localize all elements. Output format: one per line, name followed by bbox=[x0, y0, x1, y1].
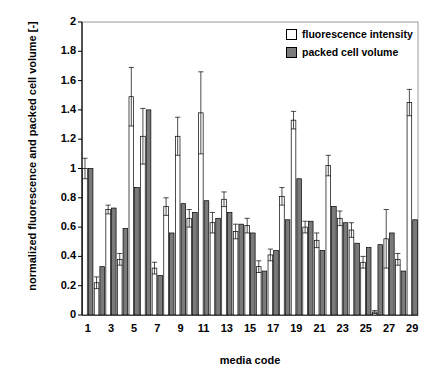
legend-item-fluorescence: fluorescence intensity bbox=[286, 28, 413, 40]
bar-fluorescence-intensity bbox=[175, 136, 180, 315]
bar-fluorescence-intensity bbox=[291, 120, 296, 315]
bar-group bbox=[372, 245, 383, 315]
bar-fluorescence-intensity bbox=[280, 196, 285, 315]
bar-group bbox=[117, 229, 128, 315]
bar-packed-cell-volume bbox=[285, 220, 290, 315]
bar-packed-cell-volume bbox=[274, 251, 279, 315]
bar-packed-cell-volume bbox=[158, 275, 163, 315]
bar-fluorescence-intensity bbox=[349, 230, 354, 315]
bar-packed-cell-volume bbox=[262, 271, 267, 315]
bar-packed-cell-volume bbox=[193, 212, 198, 315]
bar-fluorescence-intensity bbox=[233, 231, 238, 315]
bar-fluorescence-intensity bbox=[338, 218, 343, 315]
bar-group bbox=[187, 210, 198, 315]
bar-group bbox=[152, 262, 163, 315]
legend-swatch-icon bbox=[286, 47, 297, 58]
bar-fluorescence-intensity bbox=[222, 199, 227, 315]
bar-group bbox=[175, 117, 186, 315]
bar-packed-cell-volume bbox=[413, 220, 418, 315]
bar-packed-cell-volume bbox=[320, 251, 325, 315]
bar-packed-cell-volume bbox=[378, 245, 383, 315]
bar-group bbox=[326, 155, 337, 315]
bar-packed-cell-volume bbox=[88, 169, 93, 316]
bar-fluorescence-intensity bbox=[268, 255, 273, 315]
bar-packed-cell-volume bbox=[343, 223, 348, 315]
bar-group bbox=[303, 221, 314, 315]
bar-group bbox=[279, 188, 290, 315]
bar-packed-cell-volume bbox=[216, 218, 221, 315]
bar-group bbox=[210, 212, 221, 315]
bar-fluorescence-intensity bbox=[187, 218, 192, 315]
bar-group bbox=[82, 158, 93, 315]
bar-packed-cell-volume bbox=[111, 208, 116, 315]
bar-fluorescence-intensity bbox=[326, 166, 331, 315]
bar-group bbox=[407, 89, 418, 315]
bar-packed-cell-volume bbox=[332, 207, 337, 315]
bar-group bbox=[256, 261, 267, 315]
bar-packed-cell-volume bbox=[297, 179, 302, 315]
bar-packed-cell-volume bbox=[366, 248, 371, 315]
bar-fluorescence-intensity bbox=[83, 169, 88, 316]
bar-packed-cell-volume bbox=[308, 221, 313, 315]
bar-fluorescence-intensity bbox=[117, 259, 122, 315]
bar-group bbox=[337, 211, 348, 315]
bar-fluorescence-intensity bbox=[407, 103, 412, 315]
bar-group bbox=[221, 192, 232, 315]
bar-fluorescence-intensity bbox=[152, 268, 157, 315]
legend-label-packed-cell-volume: packed cell volume bbox=[302, 46, 398, 58]
bar-fluorescence-intensity bbox=[256, 267, 261, 315]
bar-packed-cell-volume bbox=[181, 204, 186, 315]
legend-item-packed-cell-volume: packed cell volume bbox=[286, 46, 413, 58]
bar-group bbox=[94, 267, 105, 315]
bar-packed-cell-volume bbox=[239, 224, 244, 315]
bar-packed-cell-volume bbox=[135, 188, 140, 315]
bar-packed-cell-volume bbox=[251, 233, 256, 315]
bar-fluorescence-intensity bbox=[303, 227, 308, 315]
bar-packed-cell-volume bbox=[355, 243, 360, 315]
legend-label-fluorescence: fluorescence intensity bbox=[302, 28, 413, 40]
bar-packed-cell-volume bbox=[100, 267, 105, 315]
bar-group bbox=[198, 72, 209, 315]
chart-figure: normalized fluorescence and packed cell … bbox=[0, 0, 440, 382]
bar-group bbox=[163, 198, 174, 315]
legend-swatch-icon bbox=[286, 29, 297, 40]
bar-fluorescence-intensity bbox=[245, 226, 250, 315]
bar-group bbox=[140, 108, 151, 315]
bar-group bbox=[395, 253, 406, 315]
bar-group bbox=[291, 111, 302, 315]
bar-group bbox=[384, 210, 395, 315]
bar-packed-cell-volume bbox=[123, 229, 128, 315]
chart-legend: fluorescence intensity packed cell volum… bbox=[286, 28, 413, 64]
bar-fluorescence-intensity bbox=[164, 207, 169, 315]
bar-group bbox=[314, 233, 325, 315]
bar-packed-cell-volume bbox=[169, 233, 174, 315]
bar-group bbox=[349, 223, 360, 315]
bar-group bbox=[106, 205, 117, 315]
bar-packed-cell-volume bbox=[146, 110, 151, 315]
bar-group bbox=[233, 224, 244, 315]
bar-fluorescence-intensity bbox=[395, 259, 400, 315]
bar-fluorescence-intensity bbox=[210, 223, 215, 315]
bar-packed-cell-volume bbox=[227, 212, 232, 315]
bar-fluorescence-intensity bbox=[106, 210, 111, 315]
bar-fluorescence-intensity bbox=[314, 240, 319, 315]
bar-fluorescence-intensity bbox=[129, 97, 134, 315]
bar-packed-cell-volume bbox=[204, 201, 209, 315]
bar-group bbox=[360, 248, 371, 315]
bar-group bbox=[129, 67, 140, 315]
bar-fluorescence-intensity bbox=[361, 262, 366, 315]
bar-packed-cell-volume bbox=[390, 233, 395, 315]
bar-group bbox=[245, 218, 256, 315]
bar-group bbox=[268, 249, 279, 315]
bar-packed-cell-volume bbox=[401, 271, 406, 315]
